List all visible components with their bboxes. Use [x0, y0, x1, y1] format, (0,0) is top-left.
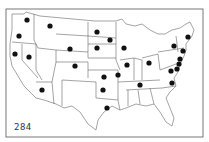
marker-dot-north-carolina: [169, 80, 174, 85]
marker-dot-maine: [185, 34, 190, 39]
marker-dot-virginia: [168, 68, 173, 73]
marker-dot-montana-west: [47, 23, 52, 28]
marker-dot-arizona: [39, 87, 44, 92]
marker-dots: [12, 17, 190, 110]
marker-dot-wyoming: [67, 46, 72, 51]
marker-dot-louisiana: [104, 105, 109, 110]
marker-dot-oklahoma: [100, 87, 105, 92]
map-frame: [6, 9, 203, 137]
marker-dot-ohio: [146, 60, 151, 65]
marker-dot-kansas: [101, 74, 106, 79]
marker-dot-massachusetts: [180, 48, 185, 53]
marker-dot-new-york: [171, 43, 176, 48]
marker-dot-illinois: [124, 62, 129, 67]
marker-dot-oregon: [16, 33, 21, 38]
marker-dot-new-jersey: [177, 56, 182, 61]
marker-dot-delaware: [176, 61, 181, 66]
us-outline: [10, 12, 194, 130]
marker-dot-colorado: [72, 63, 77, 68]
marker-dot-maryland: [174, 66, 179, 71]
marker-dot-california: [12, 51, 17, 56]
marker-dot-minnesota: [107, 37, 112, 42]
marker-dot-washington: [24, 17, 29, 22]
marker-dot-wisconsin: [121, 45, 126, 50]
marker-dot-missouri: [115, 72, 120, 77]
marker-dot-south-dakota: [94, 45, 99, 50]
figure-number: 284: [14, 122, 32, 132]
marker-dot-north-dakota: [94, 29, 99, 34]
marker-dot-nevada: [26, 54, 31, 59]
us-map: [0, 0, 209, 142]
marker-dot-tennessee: [137, 82, 142, 87]
